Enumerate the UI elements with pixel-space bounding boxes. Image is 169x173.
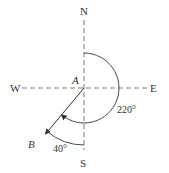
vector-ab <box>46 88 85 134</box>
label-east: E <box>150 82 157 94</box>
label-north: N <box>80 5 88 17</box>
label-south: S <box>80 157 86 169</box>
label-west: W <box>10 82 21 94</box>
label-point-a: A <box>71 74 79 86</box>
label-point-b: B <box>28 138 35 150</box>
label-angle-40: 40° <box>53 143 67 154</box>
bearing-diagram: N S E W A B 220° 40° <box>0 0 169 173</box>
label-angle-220: 220° <box>117 104 136 115</box>
